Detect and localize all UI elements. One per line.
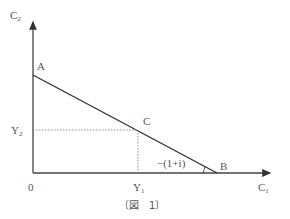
slope-angle-arc	[203, 166, 205, 173]
budget-line-ab	[33, 75, 217, 173]
budget-line-diagram: C2 A C B Y2 Y1 0 C1 −(1+i) 〔図 1〕	[0, 0, 290, 219]
point-a-label: A	[37, 60, 45, 72]
x-axis-label: C1	[258, 181, 269, 195]
point-b-label: B	[220, 160, 227, 172]
figure-caption: 〔図 1〕	[119, 200, 165, 211]
y1-label: Y1	[133, 181, 145, 195]
origin-label: 0	[28, 181, 34, 193]
y-axis-label: C2	[10, 9, 21, 23]
y2-label: Y2	[11, 124, 23, 138]
point-c-label: C	[143, 115, 150, 127]
slope-label: −(1+i)	[157, 157, 186, 170]
